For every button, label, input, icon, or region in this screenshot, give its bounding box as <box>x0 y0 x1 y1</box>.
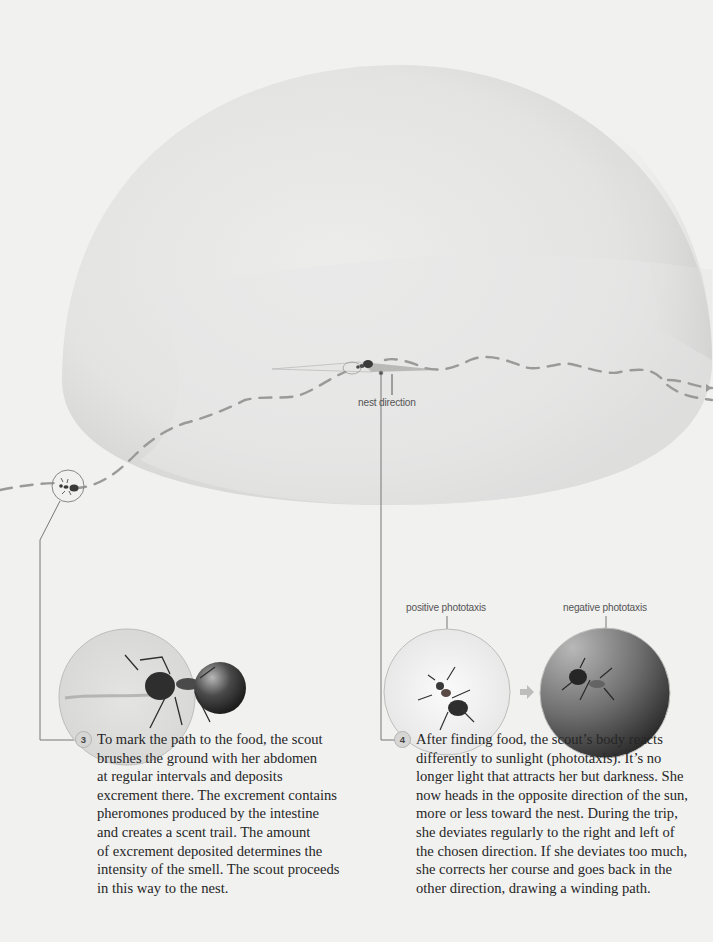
step-number-badge: 3 <box>75 731 92 748</box>
caption-line: other direction, drawing a winding path. <box>416 879 712 898</box>
right-arrow-icon <box>520 685 534 699</box>
caption-line: To mark the path to the food, the scout <box>97 730 367 749</box>
caption-line: now heads in the opposite direction of t… <box>416 786 712 805</box>
nest-direction-label: nest direction <box>358 396 416 408</box>
caption-line: longer light that attracts her but darkn… <box>416 767 712 786</box>
caption-line: she deviates regularly to the right and … <box>416 823 712 842</box>
caption-line: excrement there. The excrement contains <box>97 786 367 805</box>
sky-dome <box>62 65 712 505</box>
ant-navigation-diagram: nest direction positive phototaxis negat… <box>0 0 713 942</box>
caption-line: she corrects her course and goes back in… <box>416 860 712 879</box>
positive-phototaxis-label: positive phototaxis <box>406 601 486 613</box>
step-4-caption: 4 After finding food, the scout’s body r… <box>416 730 712 897</box>
step-number-badge: 4 <box>394 731 411 748</box>
caption-line: of excrement deposited determines the <box>97 842 367 861</box>
step-3-caption: 3 To mark the path to the food, the scou… <box>97 730 367 897</box>
caption-line: the chosen direction. If she deviates to… <box>416 842 712 861</box>
caption-line: differently to sunlight (phototaxis). It… <box>416 749 712 768</box>
caption-line: intensity of the smell. The scout procee… <box>97 860 367 879</box>
caption-line: and creates a scent trail. The amount <box>97 823 367 842</box>
negative-phototaxis-label: negative phototaxis <box>563 601 647 613</box>
caption-line: at regular intervals and deposits <box>97 767 367 786</box>
caption-line: more or less toward the nest. During the… <box>416 804 712 823</box>
scout-ant-marker <box>52 470 84 502</box>
caption-line: in this way to the nest. <box>97 879 367 898</box>
caption-line: After finding food, the scout’s body rea… <box>416 730 712 749</box>
caption-line: pheromones produced by the intestine <box>97 804 367 823</box>
caption-line: brushes the ground with her abdomen <box>97 749 367 768</box>
